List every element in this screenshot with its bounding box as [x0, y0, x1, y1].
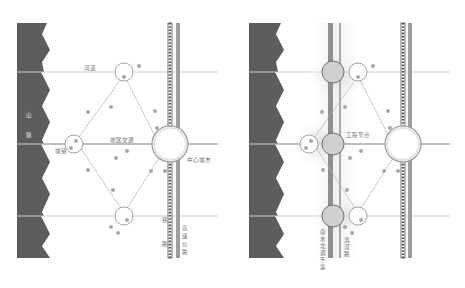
- label-railway-2: 路: [162, 240, 168, 248]
- node-central-city: [385, 126, 421, 162]
- node-town: [65, 135, 83, 153]
- label-canal-5: 干: [320, 257, 326, 264]
- label-riverside-3: 路: [344, 250, 350, 258]
- label-canal-2: 水: [320, 235, 326, 242]
- label-canal-4: 调: [320, 249, 326, 257]
- node-town: [300, 135, 318, 153]
- right-panel-engineering-structure: 工程节点 南 水 北 调 干 渠 滨 河 路: [249, 23, 450, 271]
- label-canal-1: 南: [320, 228, 326, 235]
- label-expressway-1: 高: [182, 224, 188, 232]
- node-central-city: [152, 126, 188, 162]
- node-bottom: [115, 207, 133, 225]
- engineering-node-top: [322, 61, 344, 83]
- label-expressway-3: 公: [182, 241, 188, 247]
- label-central-city: 中心城市: [187, 156, 211, 164]
- label-town: 城镇: [55, 147, 67, 155]
- mountain-range: [249, 23, 284, 258]
- label-riverside-1: 滨: [344, 236, 350, 244]
- label-river: 河道: [84, 64, 96, 72]
- label-mountain-1: 山: [26, 111, 32, 119]
- engineering-node-bottom: [322, 205, 344, 227]
- label-expressway-2: 速: [182, 233, 188, 240]
- label-regional-traffic: 地区交通: [110, 136, 134, 144]
- engineering-node-middle: [322, 133, 344, 155]
- left-panel-spatial-structure: 河道 地区交通 城镇 中心城市 山 脉 铁 路 高 速 公 路: [17, 23, 218, 258]
- mountain-range: [17, 23, 50, 258]
- label-riverside-2: 河: [344, 243, 350, 250]
- label-mountain-2: 脉: [26, 131, 32, 138]
- diagram-canvas: 河道 地区交通 城镇 中心城市 山 脉 铁 路 高 速 公 路: [0, 0, 465, 288]
- label-railway-1: 铁: [162, 216, 168, 224]
- label-canal-6: 渠: [320, 263, 326, 271]
- label-expressway-4: 路: [182, 248, 188, 256]
- node-bottom: [349, 207, 367, 225]
- label-canal-3: 北: [320, 242, 326, 250]
- label-engineering-node: 工程节点: [346, 131, 370, 139]
